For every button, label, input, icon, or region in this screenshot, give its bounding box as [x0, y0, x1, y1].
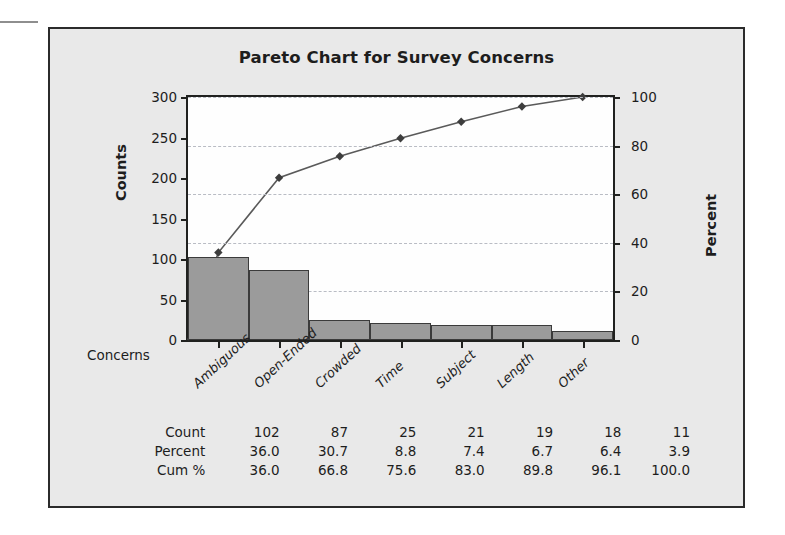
- table-cell: 89.8: [485, 460, 553, 479]
- category-axis-label: Concerns: [87, 347, 150, 363]
- right-tick-mark: [613, 146, 620, 148]
- pareto-chart-screenshot: Pareto Chart for Survey Concerns Counts …: [0, 0, 785, 535]
- category-label: Other: [554, 355, 591, 391]
- left-tick-label: 100: [151, 251, 177, 267]
- table-row-label: Cum %: [110, 460, 211, 479]
- category-label: Time: [372, 358, 406, 391]
- left-tick-label: 200: [151, 170, 177, 186]
- category-tick-mark: [461, 340, 463, 348]
- bar: [188, 257, 249, 340]
- right-tick-mark: [613, 243, 620, 245]
- category-tick-mark: [218, 340, 220, 348]
- table-cell: 102: [211, 422, 279, 441]
- category-tick-mark: [522, 340, 524, 348]
- right-axis-title: Percent: [703, 194, 719, 257]
- bar: [552, 331, 613, 340]
- table-cell: 6.7: [485, 441, 553, 460]
- left-tick-label: 250: [151, 130, 177, 146]
- left-tick-mark: [181, 97, 188, 99]
- right-tick-mark: [613, 291, 620, 293]
- table-cell: 21: [416, 422, 484, 441]
- right-tick-label: 100: [631, 89, 657, 105]
- bar: [431, 325, 492, 340]
- category-tick-mark: [279, 340, 281, 348]
- table-cell: 83.0: [416, 460, 484, 479]
- left-tick-mark: [181, 300, 188, 302]
- table-cell: 6.4: [553, 441, 621, 460]
- right-tick-label: 80: [631, 138, 648, 154]
- table-cell: 3.9: [621, 441, 690, 460]
- plot-area: 050100150200250300020406080100: [186, 95, 615, 342]
- gridline: [188, 243, 613, 244]
- bar: [370, 323, 431, 340]
- left-tick-label: 0: [168, 332, 177, 348]
- gridline: [188, 97, 613, 98]
- category-tick-mark: [340, 340, 342, 348]
- category-label: Crowded: [312, 341, 364, 391]
- table-cell: 25: [348, 422, 416, 441]
- summary-data-table: Count102872521191811Percent36.030.78.87.…: [110, 422, 690, 479]
- table-cell: 36.0: [211, 441, 279, 460]
- table-cell: 66.8: [280, 460, 348, 479]
- table-cell: 100.0: [621, 460, 690, 479]
- table-cell: 87: [280, 422, 348, 441]
- left-tick-mark: [181, 219, 188, 221]
- plot-inner: 050100150200250300020406080100: [188, 97, 613, 340]
- left-tick-mark: [181, 340, 188, 342]
- scan-artifact-line: [0, 21, 38, 23]
- pareto-table: Count102872521191811Percent36.030.78.87.…: [110, 422, 690, 479]
- left-tick-mark: [181, 178, 188, 180]
- category-label: Subject: [433, 347, 479, 391]
- table-cell: 19: [485, 422, 553, 441]
- line-marker: [518, 102, 526, 110]
- line-marker: [457, 118, 465, 126]
- table-row: Cum %36.066.875.683.089.896.1100.0: [110, 460, 690, 479]
- left-tick-mark: [181, 259, 188, 261]
- table-cell: 7.4: [416, 441, 484, 460]
- line-marker: [336, 152, 344, 160]
- gridline: [188, 146, 613, 147]
- chart-figure-frame: Pareto Chart for Survey Concerns Counts …: [48, 27, 745, 508]
- right-tick-label: 0: [631, 332, 640, 348]
- table-cell: 8.8: [348, 441, 416, 460]
- category-label: Length: [494, 349, 537, 391]
- left-tick-label: 50: [160, 292, 177, 308]
- table-cell: 30.7: [280, 441, 348, 460]
- bar: [249, 270, 310, 340]
- table-cell: 11: [621, 422, 690, 441]
- left-axis-title: Counts: [113, 144, 129, 201]
- right-tick-label: 60: [631, 186, 648, 202]
- line-marker: [396, 134, 404, 142]
- gridline: [188, 194, 613, 195]
- table-row: Percent36.030.78.87.46.76.43.9: [110, 441, 690, 460]
- table-cell: 36.0: [211, 460, 279, 479]
- table-row-label: Count: [110, 422, 211, 441]
- right-tick-label: 40: [631, 235, 648, 251]
- category-tick-mark: [583, 340, 585, 348]
- table-cell: 18: [553, 422, 621, 441]
- right-tick-mark: [613, 97, 620, 99]
- right-tick-label: 20: [631, 283, 648, 299]
- left-tick-label: 300: [151, 89, 177, 105]
- left-tick-mark: [181, 138, 188, 140]
- left-tick-label: 150: [151, 211, 177, 227]
- category-tick-mark: [401, 340, 403, 348]
- table-cell: 96.1: [553, 460, 621, 479]
- chart-title: Pareto Chart for Survey Concerns: [50, 48, 743, 67]
- table-row: Count102872521191811: [110, 422, 690, 441]
- table-row-label: Percent: [110, 441, 211, 460]
- table-cell: 75.6: [348, 460, 416, 479]
- bar: [492, 325, 553, 340]
- right-tick-mark: [613, 340, 620, 342]
- right-tick-mark: [613, 194, 620, 196]
